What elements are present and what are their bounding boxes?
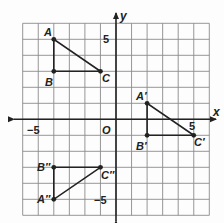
vertex-point [51,197,56,202]
point-label-C: C [102,72,111,84]
x-axis-label: x [212,105,221,119]
coordinate-plane-diagram: x y O −5 5 5 −5 A B C A′ B′ C′ B″ C″ A″ [0,0,224,223]
y-tick-5: 5 [103,33,109,45]
point-label-B-prime: B′ [136,140,148,152]
x-tick-neg5: −5 [27,124,40,136]
point-label-C-double-prime: C″ [101,169,115,181]
point-label-A-prime: A′ [135,90,148,102]
y-tick-neg5: −5 [94,194,107,206]
point-label-B: B [45,76,53,88]
point-label-A: A [43,26,52,38]
point-label-B-double-prime: B″ [37,161,51,173]
x-tick-5: 5 [189,120,195,132]
origin-label: O [102,124,111,136]
vertex-point [51,69,56,74]
point-label-C-prime: C′ [194,136,206,148]
vertex-point [51,37,56,42]
vertex-point [51,165,56,170]
point-label-A-double-prime: A″ [36,193,51,205]
coordinate-plane-svg: x y O −5 5 5 −5 A B C A′ B′ C′ B″ C″ A″ [0,0,224,223]
y-axis-label: y [119,9,128,23]
vertex-point [145,133,150,138]
